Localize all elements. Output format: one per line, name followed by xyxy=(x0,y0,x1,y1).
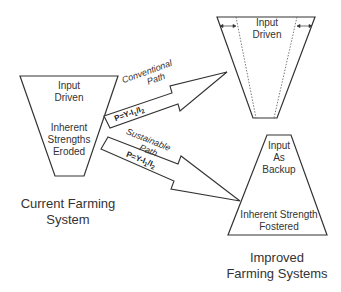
current-inherent-strengths-label: Inherent Strengths Eroded xyxy=(36,122,102,158)
label-line: Inherent xyxy=(36,122,102,134)
inherent-strength-fostered-label: Inherent Strength Fostered xyxy=(235,209,323,233)
label-line: Backup xyxy=(255,164,303,176)
input-as-backup-label: Input As Backup xyxy=(255,140,303,176)
label-line: Input xyxy=(240,17,294,29)
improved-input-driven-label: Input Driven xyxy=(240,17,294,41)
current-input-driven-label: Input Driven xyxy=(40,80,98,104)
label-line: Input xyxy=(40,80,98,92)
label-line: Driven xyxy=(240,29,294,41)
label-line: Inherent Strength xyxy=(235,209,323,221)
caption-line: Farming Systems xyxy=(214,266,340,282)
width-arrow-left-icon xyxy=(220,25,236,28)
label-line: Eroded xyxy=(36,146,102,158)
width-arrow-right-icon xyxy=(297,25,312,28)
caption-line: Current Farming xyxy=(0,196,136,212)
label-line: Input xyxy=(255,140,303,152)
current-system-caption: Current Farming System xyxy=(0,196,136,228)
label-line: Strengths xyxy=(36,134,102,146)
caption-line: Improved xyxy=(214,250,340,266)
label-line: Driven xyxy=(40,92,98,104)
caption-line: System xyxy=(0,212,136,228)
label-line: As xyxy=(255,152,303,164)
label-line: Fostered xyxy=(235,221,323,233)
improved-systems-caption: Improved Farming Systems xyxy=(214,250,340,282)
